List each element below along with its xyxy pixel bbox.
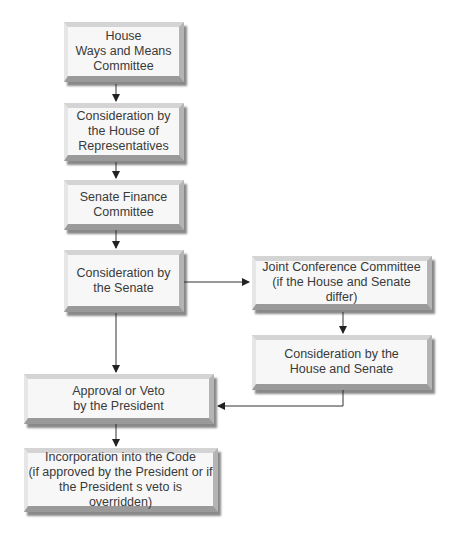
node-senate-consideration: Consideration by the Senate (64, 250, 184, 312)
node-house-ways-means: House Ways and Means Committee (64, 22, 184, 82)
node-label: House Ways and Means Committee (75, 29, 171, 74)
node-house-senate-consideration: Consideration by the House and Senate (252, 335, 432, 390)
node-label: Senate Finance Committee (80, 190, 168, 220)
arrow-both-to-president (218, 390, 343, 406)
node-label: Incorporation into the Code (if approved… (28, 450, 213, 510)
node-label: Consideration by the House of Representa… (77, 109, 171, 154)
node-house-consideration: Consideration by the House of Representa… (64, 103, 184, 161)
node-label: Consideration by the House and Senate (284, 347, 399, 377)
node-incorporation: Incorporation into the Code (if approved… (24, 448, 218, 512)
node-joint-conference: Joint Conference Committee (if the House… (252, 256, 432, 310)
node-president: Approval or Veto by the President (24, 374, 214, 424)
node-label: Joint Conference Committee (if the House… (256, 260, 427, 305)
node-label: Consideration by the Senate (77, 266, 171, 296)
node-label: Approval or Veto by the President (72, 384, 164, 414)
node-senate-finance: Senate Finance Committee (64, 180, 184, 230)
